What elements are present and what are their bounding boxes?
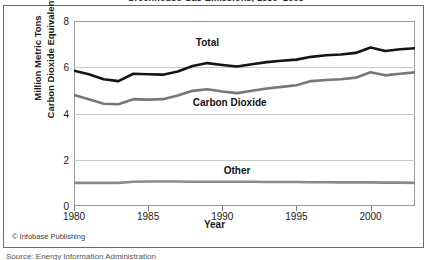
- figure-title-clipped: Greenhouse Gas Emissions, 1980–2003: [0, 0, 431, 2]
- y-tick-label-0: 0: [63, 201, 69, 212]
- y-axis-title: Million Metric Tons Carbon Dioxide Equiv…: [32, 0, 60, 143]
- plot-area: 02468 19801985199019952000 TotalCarbon D…: [74, 21, 415, 206]
- y-tick-label-8: 8: [63, 16, 69, 27]
- series-label-other: Other: [224, 165, 251, 176]
- chart-lines: [74, 21, 415, 206]
- y-tick-label-6: 6: [63, 62, 69, 73]
- series-label-total: Total: [196, 37, 219, 48]
- y-tick-label-4: 4: [63, 108, 69, 119]
- series-line-other: [74, 181, 415, 182]
- figure-caption-clipped: Source: Energy Information Administratio…: [6, 252, 326, 260]
- y-tick-label-2: 2: [63, 154, 69, 165]
- publisher-credit: © Infobase Publishing: [12, 232, 85, 241]
- y-axis-title-line-1: Million Metric Tons: [32, 0, 45, 143]
- figure-frame: Million Metric Tons Carbon Dioxide Equiv…: [3, 5, 424, 248]
- x-axis-title: Year: [4, 219, 425, 230]
- series-label-carbon-dioxide: Carbon Dioxide: [193, 97, 267, 108]
- y-axis-title-line-2: Carbon Dioxide Equivalent: [45, 0, 58, 143]
